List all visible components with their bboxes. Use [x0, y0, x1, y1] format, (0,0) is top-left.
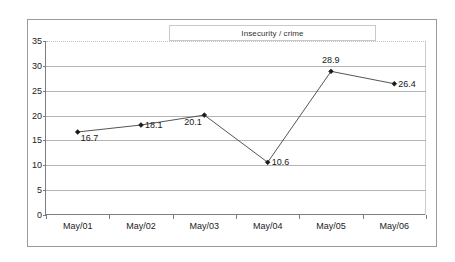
- data-point-marker: [139, 123, 144, 128]
- x-axis-label: May/01: [63, 221, 93, 231]
- data-point-label: 26.4: [398, 79, 416, 89]
- data-point-label: 16.7: [81, 133, 99, 143]
- x-axis-label: May/02: [126, 221, 156, 231]
- x-tick: [299, 215, 300, 219]
- data-point-label: 20.1: [184, 117, 202, 127]
- x-axis-label: May/04: [253, 221, 283, 231]
- data-point-label: 10.6: [272, 157, 290, 167]
- chart-title: Insecurity / crime: [241, 29, 303, 38]
- data-point-marker: [392, 81, 397, 86]
- y-axis-label: 20: [32, 111, 42, 121]
- data-point-marker: [75, 130, 80, 135]
- y-axis-label: 30: [32, 61, 42, 71]
- plot-area: 05101520253035 May/01May/02May/03May/04M…: [45, 41, 425, 215]
- x-tick: [236, 215, 237, 219]
- x-tick: [426, 215, 427, 219]
- x-tick: [173, 215, 174, 219]
- y-axis-label: 10: [32, 160, 42, 170]
- x-tick: [46, 215, 47, 219]
- series-line: [78, 71, 395, 162]
- chart-frame: Insecurity / crime 05101520253035 May/01…: [27, 19, 437, 247]
- y-axis-label: 15: [32, 135, 42, 145]
- x-tick: [109, 215, 110, 219]
- series-markers: [75, 69, 396, 165]
- y-axis-label: 35: [32, 36, 42, 46]
- chart-title-box: Insecurity / crime: [169, 25, 376, 41]
- x-axis-label: May/05: [316, 221, 346, 231]
- series-insecurity-crime: [46, 41, 426, 215]
- y-axis-label: 5: [37, 185, 42, 195]
- x-axis-label: May/03: [190, 221, 220, 231]
- data-point-label: 18.1: [145, 120, 163, 130]
- y-axis-label: 25: [32, 86, 42, 96]
- x-tick: [363, 215, 364, 219]
- x-axis-label: May/06: [380, 221, 410, 231]
- y-axis-label: 0: [37, 210, 42, 220]
- data-point-label: 28.9: [322, 55, 340, 65]
